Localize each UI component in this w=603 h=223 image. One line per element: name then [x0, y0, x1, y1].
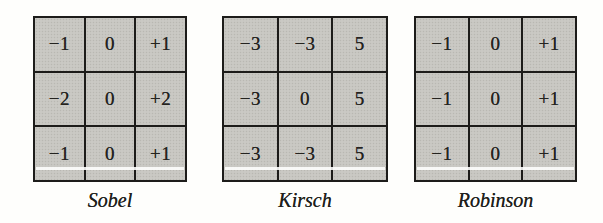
kernel-cell: −1 [35, 127, 84, 180]
kernel-cell: 5 [333, 127, 386, 180]
kernel-cell: +2 [136, 73, 185, 126]
kernel-cell: +1 [136, 18, 185, 71]
kernel-cell: −3 [279, 127, 332, 180]
kernel-cell: 0 [86, 73, 135, 126]
kirsch-label: Kirsch [278, 189, 331, 212]
kernel-cell: 5 [333, 73, 386, 126]
kernel-cell: +1 [523, 127, 575, 180]
kernel-cell: 0 [470, 73, 522, 126]
kernel-cell: −1 [35, 18, 84, 71]
kernel-cell: 0 [470, 127, 522, 180]
sobel-label: Sobel [88, 189, 132, 212]
kernel-cell: +1 [136, 127, 185, 180]
kernel-cell: 0 [470, 18, 522, 71]
kernel-cell: −3 [224, 73, 277, 126]
kernel-cell: −1 [416, 127, 468, 180]
kirsch-kernel-group: −3 −3 5 −3 0 5 −3 −3 5 Kirsch [222, 16, 388, 212]
sobel-kernel-group: −1 0 +1 −2 0 +2 −1 0 +1 Sobel [33, 16, 187, 212]
kernel-cell: −1 [416, 73, 468, 126]
robinson-kernel-group: −1 0 +1 −1 0 +1 −1 0 +1 Robinson [414, 16, 577, 212]
kernel-cell: −3 [279, 18, 332, 71]
kernel-cell: +1 [523, 73, 575, 126]
kirsch-kernel-matrix: −3 −3 5 −3 0 5 −3 −3 5 [222, 16, 388, 182]
robinson-label: Robinson [458, 189, 534, 212]
kernel-cell: −2 [35, 73, 84, 126]
sobel-kernel-matrix: −1 0 +1 −2 0 +2 −1 0 +1 [33, 16, 187, 182]
kernel-cell: 0 [86, 18, 135, 71]
robinson-kernel-matrix: −1 0 +1 −1 0 +1 −1 0 +1 [414, 16, 577, 182]
kernel-cell: 0 [86, 127, 135, 180]
kernel-cell: −3 [224, 18, 277, 71]
kernel-cell: +1 [523, 18, 575, 71]
kernel-cell: −3 [224, 127, 277, 180]
kernel-cell: −1 [416, 18, 468, 71]
kernel-cell: 0 [279, 73, 332, 126]
kernel-cell: 5 [333, 18, 386, 71]
